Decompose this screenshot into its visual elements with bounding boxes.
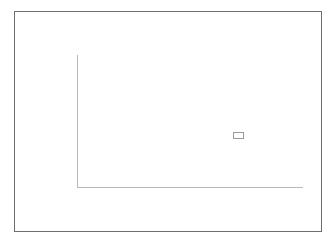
chart-frame: [14, 11, 322, 232]
chart-legend: [233, 132, 244, 139]
plot-area: [77, 55, 303, 188]
